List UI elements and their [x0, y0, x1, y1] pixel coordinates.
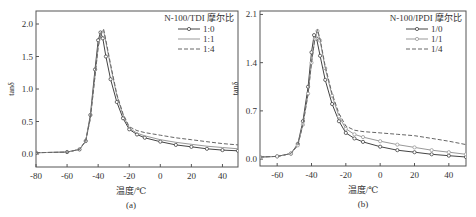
- panel-label: (a): [126, 200, 136, 210]
- series-marker: [115, 100, 118, 103]
- legend-title: N-100/IPDI 摩尔比: [390, 12, 462, 23]
- legend-entry: 1:1: [203, 34, 215, 44]
- legend-entry: 1:0: [203, 24, 215, 34]
- y-tick-label: 2.1: [246, 9, 257, 19]
- chart-panel-a: -80-60-40-20020400.00.51.01.52.0tanδ温度/℃…: [7, 11, 240, 210]
- y-tick-label: 2.0: [22, 19, 34, 29]
- legend-entry: 1:4: [203, 44, 215, 54]
- series-marker: [221, 149, 224, 152]
- series-marker: [109, 78, 112, 81]
- series-marker: [361, 140, 364, 143]
- legend-marker: [415, 27, 418, 30]
- series-marker: [143, 136, 146, 139]
- series-marker: [344, 127, 347, 130]
- y-tick-label: 0.0: [22, 149, 34, 159]
- x-axis-label: 温度/℃: [116, 185, 147, 196]
- series-marker: [190, 145, 193, 148]
- series-marker: [101, 37, 104, 40]
- y-axis-label: tanδ: [231, 82, 240, 96]
- x-tick-label: -20: [123, 171, 135, 181]
- x-tick-label: -40: [306, 170, 318, 180]
- y-tick-label: 0.7: [246, 106, 258, 116]
- x-tick-label: 0: [158, 171, 163, 181]
- series-marker: [396, 149, 399, 152]
- series-marker: [236, 149, 239, 152]
- series-marker: [205, 147, 208, 150]
- series-marker: [447, 151, 450, 154]
- x-tick-label: 20: [187, 171, 197, 181]
- x-tick-label: -80: [30, 171, 42, 181]
- legend-entry: 1/1: [431, 34, 443, 44]
- x-tick-label: 40: [444, 170, 454, 180]
- figure: -80-60-40-20020400.00.51.01.52.0tanδ温度/℃…: [0, 0, 476, 217]
- series-marker: [379, 145, 382, 148]
- series-marker: [174, 143, 177, 146]
- x-tick-label: 20: [410, 170, 420, 180]
- legend-entry: 1/0: [431, 24, 443, 34]
- panel-label: (b): [358, 199, 369, 209]
- series-marker: [430, 149, 433, 152]
- y-tick-label: 0.0: [246, 154, 258, 164]
- y-axis-label: tanδ: [7, 82, 16, 96]
- x-tick-label: -20: [340, 170, 352, 180]
- series-marker: [104, 55, 107, 58]
- x-tick-label: 40: [218, 171, 228, 181]
- x-tick-label: -60: [61, 171, 73, 181]
- series-marker: [353, 137, 356, 140]
- series-marker: [344, 131, 347, 134]
- chart-panel-b: -60-40-20020400.00.71.42.1tanδ温度/℃(b)N-1…: [231, 9, 468, 209]
- series-marker: [353, 133, 356, 136]
- y-tick-label: 1.5: [22, 52, 34, 62]
- series-marker: [447, 154, 450, 157]
- x-axis-label: 温度/℃: [348, 184, 379, 195]
- legend-marker: [415, 37, 418, 40]
- series-marker: [318, 54, 321, 57]
- legend-title: N-100/TDI 摩尔比: [164, 12, 234, 23]
- series-marker: [464, 153, 467, 156]
- y-tick-label: 1.4: [246, 58, 258, 68]
- series-marker: [337, 120, 340, 123]
- x-tick-label: -40: [92, 171, 104, 181]
- series-marker: [413, 146, 416, 149]
- y-tick-label: 1.0: [22, 84, 34, 94]
- series-marker: [430, 153, 433, 156]
- series-marker: [331, 102, 334, 105]
- series-marker: [413, 151, 416, 154]
- series-marker: [159, 140, 162, 143]
- x-tick-label: -60: [271, 170, 283, 180]
- x-tick-label: 0: [378, 170, 383, 180]
- series-marker: [396, 143, 399, 146]
- y-tick-label: 0.5: [22, 117, 34, 127]
- series-marker: [324, 78, 327, 81]
- series-marker: [361, 135, 364, 138]
- legend-marker: [187, 27, 190, 30]
- legend-entry: 1/4: [431, 44, 443, 54]
- series-marker: [379, 140, 382, 143]
